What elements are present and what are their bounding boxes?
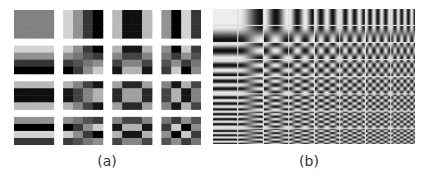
dct-8x8-basis-grid — [213, 9, 415, 144]
dct-4x4-basis-grid — [14, 10, 201, 145]
panel-label-b: (b) — [289, 153, 329, 169]
basis-grid-b-canvas — [213, 9, 415, 144]
basis-grid-a-canvas — [14, 10, 201, 145]
panel-label-a: (a) — [87, 153, 127, 169]
